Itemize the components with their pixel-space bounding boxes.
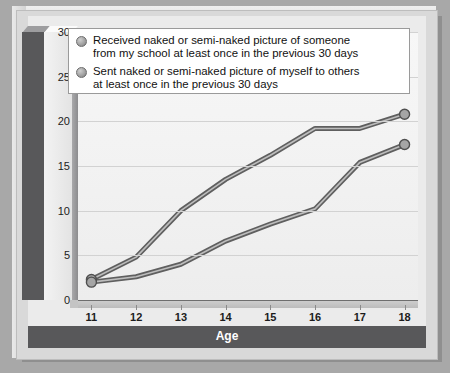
y-axis-tick-label: 30	[36, 26, 70, 38]
legend-marker-icon	[76, 67, 87, 78]
x-axis-tick-mark	[405, 305, 406, 310]
legend-item-label: Received naked or semi-naked picture of …	[93, 34, 358, 61]
x-axis-tick-label: 11	[86, 311, 98, 323]
x-axis-tick-mark	[360, 305, 361, 310]
y-axis-tick-label: 20	[36, 115, 70, 127]
legend: Received naked or semi-naked picture of …	[68, 28, 410, 94]
x-axis-tick-label: 16	[309, 311, 321, 323]
x-axis-tick-label: 17	[354, 311, 366, 323]
x-axis-tick-label: 15	[264, 311, 276, 323]
x-axis-line	[78, 300, 418, 301]
legend-label-line1: Sent naked or semi-naked picture of myse…	[93, 65, 360, 77]
gridline	[78, 255, 418, 256]
y-axis-tick-label: 5	[36, 249, 70, 261]
y-axis-tick-label: 0	[36, 294, 70, 306]
legend-item: Received naked or semi-naked picture of …	[76, 34, 402, 61]
x-axis-title: Age	[28, 329, 426, 343]
data-point-marker	[400, 109, 410, 119]
legend-item: Sent naked or semi-naked picture of myse…	[76, 65, 402, 92]
x-axis-ticks: 1112131415161718	[78, 305, 418, 327]
gridline	[78, 211, 418, 212]
legend-label-line1: Received naked or semi-naked picture of …	[93, 34, 350, 46]
x-axis-tick-mark	[181, 305, 182, 310]
y-axis-ticks: 051015202530	[36, 32, 70, 300]
legend-label-line2: from my school at least once in the prev…	[93, 47, 358, 59]
x-axis-tick-label: 18	[398, 311, 410, 323]
x-axis-tick-label: 12	[130, 311, 142, 323]
legend-marker-icon	[76, 36, 87, 47]
y-axis-tick-label: 15	[36, 160, 70, 172]
gridline	[78, 121, 418, 122]
chart-figure: Percent 051015202530 1112131415161718 Ag…	[0, 0, 450, 373]
data-point-marker	[86, 277, 96, 287]
x-axis-tick-mark	[136, 305, 137, 310]
data-point-marker	[400, 140, 410, 150]
x-axis-tick-mark	[270, 305, 271, 310]
x-axis-tick-label: 13	[175, 311, 187, 323]
y-axis-tick-label: 25	[36, 71, 70, 83]
x-axis-tick-mark	[315, 305, 316, 310]
gridline	[78, 166, 418, 167]
x-axis-tick-mark	[91, 305, 92, 310]
x-axis-tick-label: 14	[220, 311, 232, 323]
legend-label-line2: at least once in the previous 30 days	[93, 78, 278, 90]
x-axis-tick-mark	[226, 305, 227, 310]
y-axis-tick-label: 10	[36, 205, 70, 217]
legend-item-label: Sent naked or semi-naked picture of myse…	[93, 65, 360, 92]
